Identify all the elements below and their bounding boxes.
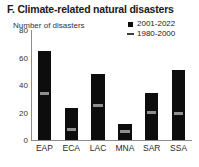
x-axis-tick-label-lac: LAC [85,143,112,153]
prev-period-marker-lac [93,104,102,107]
x-axis-tick-label-eca: ECA [58,143,85,153]
bar-ssa [172,70,185,140]
y-axis-tick-label: 0 [24,136,28,145]
bar-group [65,30,78,140]
prev-period-marker-ssa [174,112,183,115]
y-axis-tick-label: 20 [19,108,28,117]
prev-period-marker-mna [120,130,129,133]
bar-group [91,30,104,140]
bar-group [145,30,158,140]
y-axis-tick-label: 40 [19,81,28,90]
prev-period-marker-sar [147,111,156,114]
chart-figure: F. Climate-related natural disasters Num… [0,0,199,167]
bar-sar [145,93,158,140]
bar-group [172,30,185,140]
x-axis-tick-label-eap: EAP [31,143,58,153]
prev-period-marker-eap [40,92,49,95]
bar-group [118,30,131,140]
plot-area [31,30,192,140]
y-axis-tick-label: 60 [19,53,28,62]
page-title: F. Climate-related natural disasters [7,3,174,15]
bar-eap [38,51,51,140]
x-axis-line [31,140,192,141]
x-axis-tick-label-mna: MNA [112,143,139,153]
bar-eca [65,108,78,140]
prev-period-marker-eca [67,128,76,131]
legend-item-2001-2022: 2001-2022 [126,19,175,29]
x-axis-tick-label-ssa: SSA [165,143,192,153]
bar-group [38,30,51,140]
y-axis-tick-label: 80 [19,26,28,35]
x-axis-tick-label-sar: SAR [138,143,165,153]
legend-label: 2001-2022 [137,19,175,29]
y-axis-ticks: 020406080 [0,0,28,167]
filled-square-icon [126,22,135,27]
